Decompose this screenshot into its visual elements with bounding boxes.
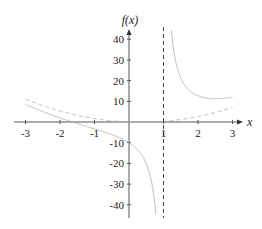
x-axis-label: x: [246, 115, 253, 129]
y-tick-label: -20: [109, 157, 124, 169]
y-tick-label: -40: [109, 199, 124, 211]
x-tick-label: 1: [161, 127, 167, 139]
x-tick-label: 2: [195, 127, 201, 139]
x-tick-label: -1: [90, 127, 99, 139]
y-tick-label: 20: [113, 75, 125, 87]
x-tick-label: -3: [21, 127, 31, 139]
function-curve-right-branch: [171, 31, 232, 99]
axes: [14, 29, 243, 218]
x-tick-label: 3: [230, 127, 236, 139]
y-axis-label: f(x): [122, 13, 139, 27]
y-tick-label: 10: [113, 95, 125, 107]
x-tick-label: -2: [55, 127, 64, 139]
y-tick-label: 40: [113, 33, 125, 45]
y-tick-label: 30: [113, 54, 125, 66]
y-tick-label: -10: [109, 137, 124, 149]
function-curve-left-branch: [26, 104, 156, 213]
function-plot: -3-2-112340302010-10-20-30-40xf(x): [0, 0, 262, 229]
x-axis-arrow-icon: [237, 120, 243, 125]
y-tick-label: -30: [109, 178, 124, 190]
y-axis-arrow-icon: [127, 29, 132, 35]
